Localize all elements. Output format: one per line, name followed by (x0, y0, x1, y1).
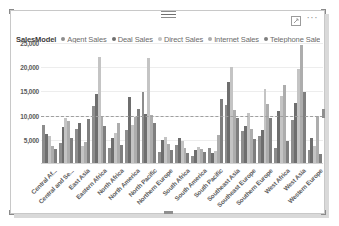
bar[interactable] (170, 150, 173, 163)
legend-swatch-agent-sales (61, 37, 65, 41)
bar-group[interactable] (124, 43, 141, 163)
bar[interactable] (253, 139, 256, 163)
y-axis-tick-label: 25,000 (20, 40, 39, 47)
drag-grip-line-1 (161, 11, 176, 12)
bar[interactable] (303, 92, 306, 163)
bar-group[interactable] (107, 43, 124, 163)
resize-handle-top-left[interactable] (9, 9, 14, 14)
bar[interactable] (319, 154, 322, 163)
bar-group[interactable] (240, 43, 257, 163)
bar[interactable] (103, 126, 106, 163)
bar[interactable] (286, 141, 289, 163)
bar[interactable] (137, 109, 140, 163)
bar[interactable] (87, 119, 90, 163)
reference-line (41, 116, 323, 117)
sales-model-chart-visual[interactable]: ··· SalesModel Agent Sales Deal Sales Di… (10, 10, 325, 214)
y-axis-tick-label: 5,000 (24, 136, 39, 143)
bar[interactable] (120, 145, 123, 163)
legend-swatch-telephone-sales (264, 37, 268, 41)
bar[interactable] (153, 123, 156, 163)
legend-swatch-internet-sales (208, 37, 212, 41)
bar-group[interactable] (207, 43, 224, 163)
bar-series-container[interactable] (41, 43, 323, 163)
bar-group[interactable] (41, 43, 58, 163)
bar-group[interactable] (290, 43, 307, 163)
bar[interactable] (186, 153, 189, 163)
focus-mode-icon[interactable] (291, 16, 301, 26)
visual-header-toolbar[interactable]: ··· (291, 16, 319, 26)
bar-group[interactable] (74, 43, 91, 163)
bar[interactable] (236, 118, 239, 163)
resize-handle-right-center[interactable] (322, 109, 325, 118)
resize-handle-bottom-center[interactable] (164, 211, 173, 214)
bar-group[interactable] (157, 43, 174, 163)
bar-group[interactable] (141, 43, 158, 163)
visual-drag-grip[interactable] (161, 11, 176, 20)
y-axis-tick-label: 20,000 (20, 64, 39, 71)
plot-area[interactable] (41, 43, 323, 164)
x-axis-baseline (41, 163, 323, 164)
drag-grip-line-3 (161, 17, 176, 18)
y-axis-tick-label: 15,000 (20, 88, 39, 95)
bar[interactable] (220, 99, 223, 163)
bar[interactable] (269, 118, 272, 163)
bar[interactable] (203, 152, 206, 163)
bar-group[interactable] (224, 43, 241, 163)
resize-handle-top-right[interactable] (321, 9, 326, 14)
resize-handle-bottom-right[interactable] (321, 210, 326, 215)
bar[interactable] (54, 149, 57, 163)
bar-group[interactable] (58, 43, 75, 163)
more-options-icon[interactable]: ··· (307, 13, 319, 23)
resize-handle-bottom-left[interactable] (9, 210, 14, 215)
legend-swatch-direct-sales (158, 37, 162, 41)
bar-group[interactable] (174, 43, 191, 163)
chart-plot-wrapper: 5,00010,00015,00020,00025,000 Central Af… (11, 43, 326, 213)
bar-group[interactable] (190, 43, 207, 163)
y-axis: 5,00010,00015,00020,00025,000 (11, 43, 41, 164)
bar-group[interactable] (91, 43, 108, 163)
drag-grip-line-2 (161, 14, 176, 15)
bar-group[interactable] (273, 43, 290, 163)
y-axis-tick-label: 10,000 (20, 112, 39, 119)
bar-group[interactable] (307, 43, 324, 163)
bar[interactable] (70, 138, 73, 163)
x-axis: Central Af...Central and Se...East AsiaE… (41, 165, 323, 213)
bar-group[interactable] (257, 43, 274, 163)
legend-swatch-deal-sales (112, 37, 116, 41)
